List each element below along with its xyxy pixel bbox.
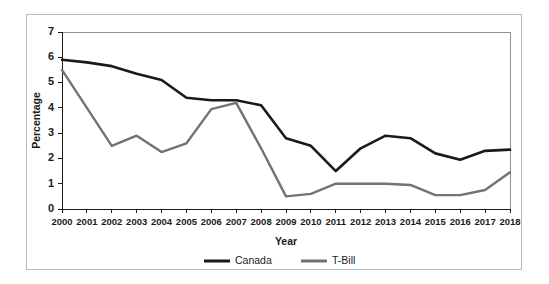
axes-group (62, 32, 510, 209)
y-tick-label: 3 (48, 126, 54, 138)
x-tick-label: 2016 (450, 216, 471, 227)
x-tick-label: 2013 (375, 216, 396, 227)
y-axis-ticks: 01234567 (48, 25, 62, 214)
legend-label-t-bill: T-Bill (332, 254, 355, 266)
x-tick-label: 2009 (275, 216, 296, 227)
line-chart: 01234567 2000200120022003200420052006200… (0, 0, 549, 284)
y-tick-label: 4 (48, 101, 55, 113)
x-tick-label: 2011 (325, 216, 346, 227)
x-tick-label: 2012 (350, 216, 371, 227)
y-tick-label: 0 (48, 202, 54, 214)
x-axis-title: Year (275, 235, 297, 247)
y-tick-label: 5 (48, 75, 54, 87)
x-axis-ticks: 2000200120022003200420052006200720082009… (51, 209, 520, 227)
legend-label-canada: Canada (235, 254, 272, 266)
data-series-group (62, 60, 510, 197)
y-tick-label: 7 (48, 25, 54, 37)
x-tick-label: 2018 (499, 216, 520, 227)
y-tick-label: 1 (48, 177, 54, 189)
x-tick-label: 2006 (201, 216, 222, 227)
x-tick-label: 2001 (76, 216, 98, 227)
series-line-canada (62, 60, 510, 171)
x-tick-label: 2014 (400, 216, 422, 227)
x-tick-label: 2007 (226, 216, 247, 227)
x-tick-label: 2010 (300, 216, 321, 227)
x-tick-label: 2005 (176, 216, 198, 227)
y-tick-label: 2 (48, 151, 54, 163)
chart-figure: 01234567 2000200120022003200420052006200… (0, 0, 549, 284)
x-tick-label: 2015 (425, 216, 447, 227)
plot-area-wrapper: 01234567 2000200120022003200420052006200… (0, 0, 549, 284)
chart-legend: CanadaT-Bill (204, 254, 355, 266)
x-tick-label: 2017 (475, 216, 496, 227)
x-tick-label: 2008 (251, 216, 272, 227)
y-tick-label: 6 (48, 50, 54, 62)
x-tick-label: 2000 (51, 216, 72, 227)
x-tick-label: 2002 (101, 216, 122, 227)
plot-frame (62, 32, 510, 209)
x-tick-label: 2003 (126, 216, 147, 227)
x-tick-label: 2004 (151, 216, 173, 227)
series-line-t-bill (62, 70, 510, 196)
y-axis-title: Percentage (30, 92, 42, 149)
